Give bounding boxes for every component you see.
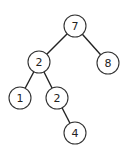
edges bbox=[20, 26, 108, 133]
node-label: 2 bbox=[36, 56, 43, 69]
node-label: 4 bbox=[72, 127, 79, 140]
tree-node-root: 7 bbox=[64, 15, 86, 37]
node-label: 1 bbox=[17, 92, 24, 105]
tree-node-left-right: 2 bbox=[46, 87, 68, 109]
node-label: 8 bbox=[105, 57, 112, 70]
tree-node-right: 8 bbox=[97, 52, 119, 74]
tree-node-leaf-4: 4 bbox=[64, 122, 86, 144]
tree-node-left: 2 bbox=[28, 51, 50, 73]
node-label: 2 bbox=[54, 92, 61, 105]
node-label: 7 bbox=[72, 20, 79, 33]
tree-node-left-left: 1 bbox=[9, 87, 31, 109]
tree-diagram: 7 2 8 1 2 4 bbox=[0, 0, 129, 153]
